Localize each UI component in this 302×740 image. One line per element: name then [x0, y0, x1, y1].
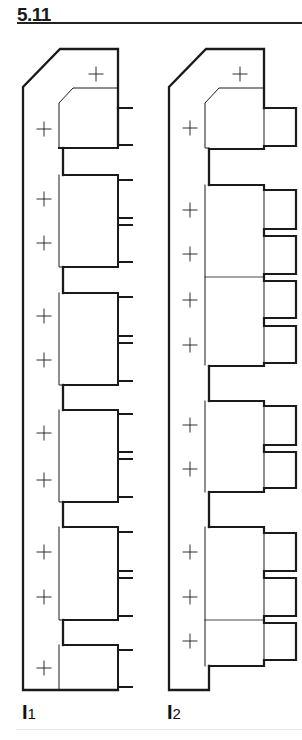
- panel-i1: [23, 49, 132, 690]
- panel-i2: [169, 49, 296, 690]
- panel-label-i2: I2: [167, 701, 181, 724]
- footer-rule: [17, 729, 302, 730]
- outer-outline: [23, 49, 118, 690]
- cross-marks: [183, 67, 247, 648]
- panel-label-i1: I1: [22, 701, 36, 724]
- diagram-canvas: [0, 0, 302, 740]
- cross-marks: [37, 67, 103, 675]
- outer-outline: [169, 49, 264, 690]
